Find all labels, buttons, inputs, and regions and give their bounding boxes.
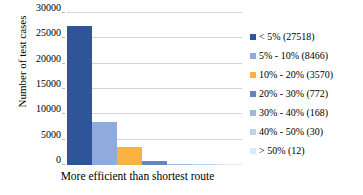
y-axis-tick-labels: 050001000015000200002500030000 [0,13,65,165]
bar [192,164,217,165]
bar-chart: Number of test cases 0500010000150002000… [0,0,363,195]
bar [92,122,117,165]
legend-label: 5% - 10% (8466) [259,51,328,61]
y-axis-tick-label: 10000 [36,104,61,114]
legend-swatch-icon [250,129,256,135]
legend-swatch-icon [250,34,256,40]
legend-swatch-icon [250,72,256,78]
plot-area [67,13,242,165]
y-axis-tick-label: 15000 [36,79,61,89]
y-axis-tick-mark [62,88,65,89]
legend-item[interactable]: 5% - 10% (8466) [250,46,363,65]
bar [217,164,242,165]
legend-swatch-icon [250,148,256,154]
bar [142,161,167,165]
legend-item[interactable]: < 5% (27518) [250,27,363,46]
legend-label: 40% - 50% (30) [259,127,323,137]
chart-legend: < 5% (27518)5% - 10% (8466)10% - 20% (35… [250,27,363,160]
bar-series [67,13,242,165]
y-axis-tick-mark [62,164,65,165]
y-axis-tick-label: 20000 [36,54,61,64]
legend-label: 20% - 30% (772) [259,89,328,99]
x-axis-title: More efficient than shortest route [30,170,245,183]
legend-label: 30% - 40% (168) [259,108,328,118]
legend-item[interactable]: 10% - 20% (3570) [250,65,363,84]
y-axis-tick-mark [62,139,65,140]
legend-swatch-icon [250,53,256,59]
legend-swatch-icon [250,110,256,116]
legend-label: 10% - 20% (3570) [259,70,333,80]
y-axis-tick-label: 0 [56,155,61,165]
legend-swatch-icon [250,91,256,97]
y-axis-tick-mark [62,37,65,38]
legend-label: > 50% (12) [259,146,305,156]
legend-item[interactable]: 30% - 40% (168) [250,103,363,122]
y-axis-tick-label: 5000 [41,130,61,140]
y-axis-tick-mark [62,113,65,114]
bar [67,26,92,165]
legend-item[interactable]: > 50% (12) [250,141,363,160]
y-axis-tick-label: 25000 [36,28,61,38]
legend-label: < 5% (27518) [259,32,315,42]
y-axis-tick-mark [62,12,65,13]
legend-item[interactable]: 20% - 30% (772) [250,84,363,103]
y-axis-tick-mark [62,63,65,64]
bar [117,147,142,165]
y-axis-tick-label: 30000 [36,3,61,13]
legend-item[interactable]: 40% - 50% (30) [250,122,363,141]
bar [167,164,192,165]
